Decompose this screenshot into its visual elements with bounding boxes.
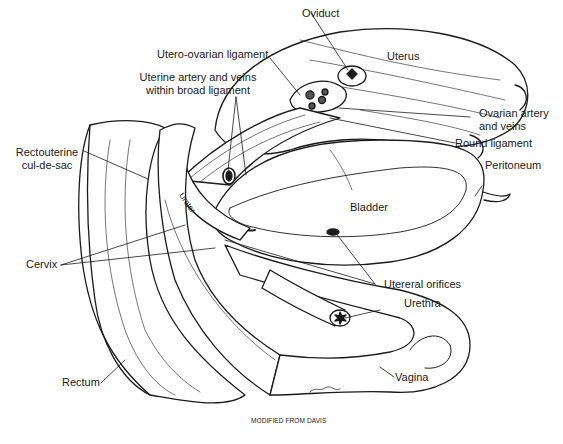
label-ovarian-artery: Ovarian artery and veins bbox=[479, 107, 549, 133]
label-oviduct: Oviduct bbox=[302, 7, 339, 20]
label-urethra: Urethra bbox=[404, 297, 441, 310]
label-bladder: Bladder bbox=[350, 201, 388, 214]
label-utero-ovarian-ligament: Utero-ovarian ligament bbox=[157, 48, 268, 61]
label-rectouterine-line2: cul-de-sac bbox=[13, 159, 81, 172]
label-uterine-artery: Uterine artery and veins within broad li… bbox=[137, 71, 259, 97]
label-peritoneum: Peritoneum bbox=[485, 159, 541, 172]
label-uterine-artery-line2: within broad ligament bbox=[137, 84, 259, 97]
label-cervix: Cervix bbox=[26, 258, 57, 271]
figure-credit: MODIFIED FROM DAVIS bbox=[251, 414, 326, 427]
label-rectouterine-cul-de-sac: Rectouterine cul-de-sac bbox=[13, 146, 81, 172]
label-uterine-artery-line1: Uterine artery and veins bbox=[137, 71, 259, 84]
label-ovarian-artery-line1: Ovarian artery bbox=[479, 107, 549, 120]
anatomy-figure: Oviduct Uterus Utero-ovarian ligament Ut… bbox=[0, 0, 563, 444]
label-rectouterine-line1: Rectouterine bbox=[13, 146, 81, 159]
label-rectum: Rectum bbox=[62, 376, 100, 389]
label-ureteral-orifices: Utereral orifices bbox=[384, 278, 461, 291]
label-vagina: Vagina bbox=[395, 371, 428, 384]
label-uterus: Uterus bbox=[387, 50, 419, 63]
label-round-ligament: Round ligament bbox=[455, 137, 532, 150]
label-ovarian-artery-line2: and veins bbox=[479, 120, 549, 133]
